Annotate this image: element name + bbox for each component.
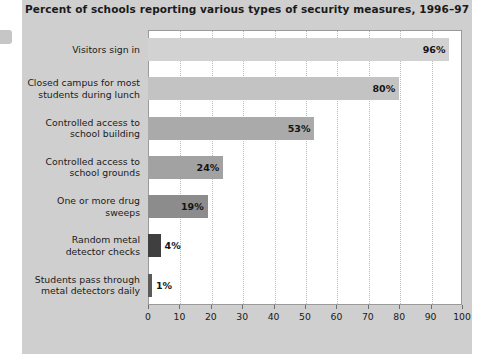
page-edge-marker xyxy=(0,30,12,44)
category-label: Controlled access toschool building xyxy=(22,109,144,148)
bar[interactable] xyxy=(148,77,399,100)
x-tick-mark-60 xyxy=(336,305,337,309)
x-tick-label-30: 30 xyxy=(236,311,248,322)
x-tick-label-90: 90 xyxy=(425,311,437,322)
x-tick-label-0: 0 xyxy=(145,311,151,322)
category-label: Random metaldetector checks xyxy=(22,226,144,265)
x-tick-mark-0 xyxy=(148,305,149,309)
x-tick-mark-100 xyxy=(462,305,463,309)
x-tick-mark-40 xyxy=(274,305,275,309)
category-label-text: Closed campus for moststudents during lu… xyxy=(27,77,140,100)
x-tick-label-70: 70 xyxy=(362,311,374,322)
bar[interactable] xyxy=(148,274,152,297)
x-tick-label-80: 80 xyxy=(393,311,405,322)
bar-row[interactable]: 24% xyxy=(148,148,462,187)
category-label: Visitors sign in xyxy=(22,30,144,69)
bar[interactable] xyxy=(148,38,449,61)
x-tick-label-50: 50 xyxy=(299,311,311,322)
x-tick-mark-10 xyxy=(179,305,180,309)
category-label: Closed campus for moststudents during lu… xyxy=(22,69,144,108)
category-label-text: Controlled access toschool building xyxy=(46,117,140,140)
x-axis: 0102030405060708090100 xyxy=(148,305,462,331)
bar-row[interactable]: 1% xyxy=(148,266,462,305)
bar-row[interactable]: 4% xyxy=(148,226,462,265)
category-label-text: One or more drugsweeps xyxy=(57,195,140,218)
category-label-text: Visitors sign in xyxy=(72,44,140,56)
bar-value-label: 96% xyxy=(421,38,445,61)
bar-value-label: 24% xyxy=(195,156,219,179)
bar-value-label: 4% xyxy=(165,234,181,257)
x-tick-mark-90 xyxy=(431,305,432,309)
x-tick-label-40: 40 xyxy=(268,311,280,322)
category-label: Students pass throughmetal detectors dai… xyxy=(22,266,144,305)
x-tick-mark-30 xyxy=(242,305,243,309)
x-tick-label-60: 60 xyxy=(330,311,342,322)
x-tick-mark-50 xyxy=(305,305,306,309)
x-tick-label-10: 10 xyxy=(173,311,185,322)
x-tick-mark-70 xyxy=(368,305,369,309)
bar-value-label: 53% xyxy=(286,117,310,140)
x-tick-mark-80 xyxy=(399,305,400,309)
category-axis-labels: Visitors sign inClosed campus for mostst… xyxy=(22,30,144,305)
bar-row[interactable]: 80% xyxy=(148,69,462,108)
category-label: Controlled access toschool grounds xyxy=(22,148,144,187)
chart-title: Percent of schools reporting various typ… xyxy=(22,3,472,15)
bar-row[interactable]: 53% xyxy=(148,109,462,148)
bar-value-label: 80% xyxy=(371,77,395,100)
category-label-text: Students pass throughmetal detectors dai… xyxy=(35,274,140,297)
bar-value-label: 1% xyxy=(156,274,172,297)
x-tick-label-100: 100 xyxy=(453,311,471,322)
bars-layer: 96%80%53%24%19%4%1% xyxy=(148,30,462,305)
x-tick-mark-20 xyxy=(211,305,212,309)
category-label-text: Controlled access toschool grounds xyxy=(46,156,140,179)
x-tick-label-20: 20 xyxy=(205,311,217,322)
bar-value-label: 19% xyxy=(180,195,204,218)
bar-row[interactable]: 19% xyxy=(148,187,462,226)
category-label: One or more drugsweeps xyxy=(22,187,144,226)
bar[interactable] xyxy=(148,234,161,257)
category-label-text: Random metaldetector checks xyxy=(66,234,140,257)
bar-row[interactable]: 96% xyxy=(148,30,462,69)
